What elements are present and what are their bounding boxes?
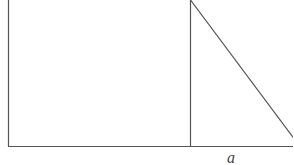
geometry-diagram: a	[0, 0, 293, 165]
triangle-hypotenuse	[191, 0, 294, 147]
segment-label-a: a	[227, 149, 235, 165]
